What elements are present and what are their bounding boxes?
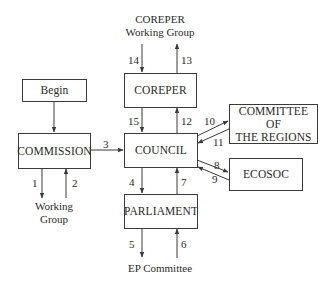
node-begin: Begin bbox=[22, 79, 87, 102]
node-coreper: COREPER bbox=[124, 73, 197, 108]
commission-wg-line2: Group bbox=[30, 213, 78, 226]
node-ecosoc: ECOSOC bbox=[229, 158, 303, 191]
node-committee-regions-line2: THE REGIONS bbox=[235, 131, 311, 144]
commission-wg-line1: Working bbox=[30, 200, 78, 213]
edge-label-1: 1 bbox=[32, 177, 38, 189]
node-parliament: PARLIAMENT bbox=[124, 194, 198, 229]
coreper-wg-line2: Working Group bbox=[118, 26, 202, 39]
node-council-label: COUNCIL bbox=[135, 144, 187, 157]
edge-label-12: 12 bbox=[181, 115, 192, 127]
edge-label-7: 7 bbox=[181, 176, 187, 188]
edge-label-15: 15 bbox=[128, 115, 139, 127]
node-parliament-label: PARLIAMENT bbox=[124, 205, 198, 218]
node-ecosoc-label: ECOSOC bbox=[243, 168, 289, 181]
external-coreper-working-group: COREPER Working Group bbox=[124, 13, 196, 39]
edge-label-13: 13 bbox=[181, 54, 192, 66]
external-ep-committee: EP Committee bbox=[118, 262, 202, 275]
edge-label-6: 6 bbox=[181, 238, 187, 250]
external-commission-working-group: Working Group bbox=[30, 200, 78, 226]
edge-label-2: 2 bbox=[72, 177, 78, 189]
edge-label-4: 4 bbox=[129, 176, 135, 188]
node-coreper-label: COREPER bbox=[134, 84, 186, 97]
edge-label-9: 9 bbox=[212, 173, 218, 185]
node-committee-regions-line1: COMMITTEE OF bbox=[230, 105, 317, 131]
arrow-8 bbox=[197, 160, 228, 172]
ep-committee-label: EP Committee bbox=[128, 262, 192, 274]
edge-label-11: 11 bbox=[213, 136, 224, 148]
edge-label-3: 3 bbox=[103, 138, 109, 150]
node-commission: COMMISSION bbox=[18, 133, 91, 169]
node-council: COUNCIL bbox=[124, 133, 198, 168]
coreper-wg-line1: COREPER bbox=[124, 13, 196, 26]
node-begin-label: Begin bbox=[41, 84, 69, 97]
node-committee-of-the-regions: COMMITTEE OF THE REGIONS bbox=[229, 104, 318, 144]
edge-label-14: 14 bbox=[128, 54, 139, 66]
edge-label-8: 8 bbox=[214, 159, 220, 171]
edge-label-10: 10 bbox=[204, 115, 215, 127]
edge-label-5: 5 bbox=[129, 238, 135, 250]
node-commission-label: COMMISSION bbox=[17, 145, 92, 158]
